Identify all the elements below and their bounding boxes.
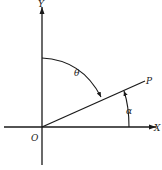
polar-diagram: Y X O P θ α [0, 0, 162, 170]
ray-op [42, 81, 145, 127]
origin-label: O [31, 133, 39, 143]
alpha-label: α [126, 106, 132, 116]
x-axis-label: X [153, 123, 161, 133]
point-p-label: P [145, 76, 153, 86]
theta-arc [42, 58, 101, 97]
y-axis-label: Y [38, 0, 45, 9]
theta-label: θ [74, 68, 80, 78]
